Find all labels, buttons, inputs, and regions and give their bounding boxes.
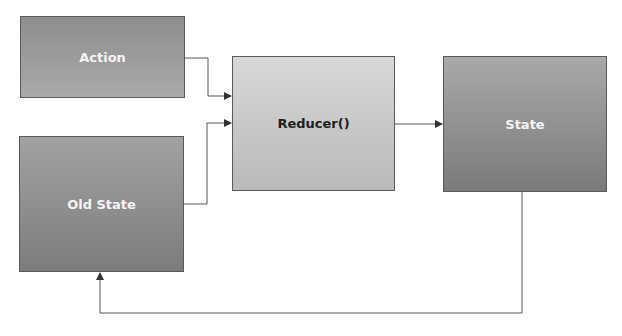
edge-action-to-reducer <box>185 58 231 96</box>
reducer-node: Reducer() <box>232 56 395 191</box>
old-state-node: Old State <box>19 136 184 272</box>
action-node: Action <box>20 16 185 98</box>
state-label: State <box>505 117 544 132</box>
reducer-label: Reducer() <box>277 116 349 131</box>
old-state-label: Old State <box>67 197 136 212</box>
action-label: Action <box>79 50 126 65</box>
state-node: State <box>443 56 607 192</box>
edge-oldstate-to-reducer <box>184 123 231 204</box>
